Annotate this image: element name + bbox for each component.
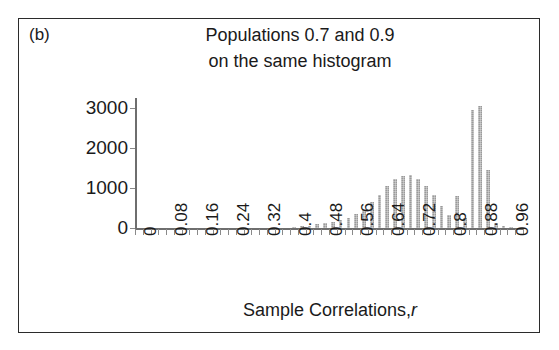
histogram-bar: [409, 175, 413, 228]
histogram-bar: [347, 218, 351, 228]
x-axis-tick-label: 0.4: [296, 212, 316, 236]
y-axis-tick: [130, 108, 135, 109]
chart-title: Populations 0.7 and 0.9 on the same hist…: [130, 22, 470, 74]
x-axis-tick: [383, 229, 384, 235]
y-axis-tick: [130, 188, 135, 189]
y-axis-tick-label: 0: [117, 217, 128, 239]
y-axis-tick-label: 1000: [86, 177, 128, 199]
x-axis-tick: [414, 229, 415, 235]
histogram-bar: [471, 110, 475, 228]
x-axis-tick: [166, 229, 167, 235]
x-axis-tick: [259, 229, 260, 235]
x-axis-tick-label: 0.72: [420, 203, 440, 236]
x-axis-tick-label: 0.64: [389, 203, 409, 236]
x-axis-tick-label: 0.32: [265, 203, 285, 236]
x-axis-title-variable: r: [411, 300, 417, 320]
x-axis-tick: [321, 229, 322, 235]
x-axis-tick: [352, 229, 353, 235]
x-axis-tick-label: 0.88: [482, 203, 502, 236]
y-axis-tick-labels: 0100020003000: [40, 98, 128, 228]
histogram-bar: [440, 206, 444, 228]
y-axis-tick-label: 3000: [86, 97, 128, 119]
histogram-bar: [378, 195, 382, 228]
histogram-bar: [315, 224, 319, 228]
chart-title-line-2: on the same histogram: [130, 48, 470, 74]
x-axis-tick: [445, 229, 446, 235]
y-axis-tick-label: 2000: [86, 137, 128, 159]
x-axis-tick-label: 0.48: [327, 203, 347, 236]
x-axis-tick-labels: 00.080.160.240.320.40.480.560.640.720.80…: [135, 236, 530, 296]
figure-canvas: (b) Populations 0.7 and 0.9 on the same …: [0, 0, 559, 350]
x-axis-tick: [135, 229, 136, 235]
x-axis-tick: [290, 229, 291, 235]
x-axis-tick: [197, 229, 198, 235]
x-axis-tick: [476, 229, 477, 235]
x-axis-title: Sample Correlations,r: [135, 300, 525, 321]
panel-label: (b): [29, 25, 50, 45]
histogram-bar: [502, 226, 506, 228]
x-axis-tick: [228, 229, 229, 235]
x-axis-title-text: Sample Correlations,: [243, 300, 411, 320]
y-axis-tick: [130, 148, 135, 149]
x-axis-tick: [507, 229, 508, 235]
x-axis-tick-label: 0.24: [234, 203, 254, 236]
x-axis-tick-label: 0.16: [203, 203, 223, 236]
x-axis-tick-label: 0.08: [172, 203, 192, 236]
x-axis-tick-label: 0.56: [358, 203, 378, 236]
chart-title-line-1: Populations 0.7 and 0.9: [130, 22, 470, 48]
x-axis-tick-label: 0: [141, 227, 161, 236]
x-axis-tick-label: 0.96: [513, 203, 533, 236]
x-axis-tick-label: 0.8: [451, 212, 471, 236]
